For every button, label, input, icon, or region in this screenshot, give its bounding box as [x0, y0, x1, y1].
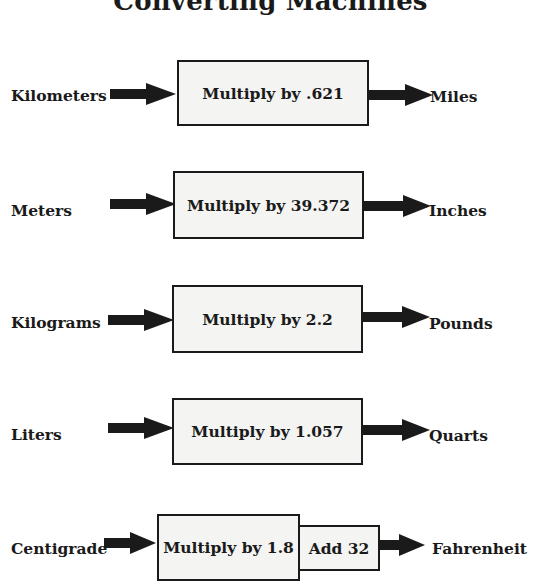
output-arrow-icon [363, 195, 431, 217]
input-label-centigrade: Centigrade [11, 539, 107, 558]
machine-box-kilometers: Multiply by .621 [177, 60, 369, 126]
input-label-liters: Liters [11, 425, 62, 444]
input-label-kilometers: Kilometers [11, 86, 107, 105]
machine-box-multiply: Multiply by 1.8 [157, 514, 300, 581]
output-arrow-icon [362, 419, 430, 441]
machine-box-add: Add 32 [298, 525, 380, 571]
input-arrow-icon [108, 309, 174, 331]
output-label-quarts: Quarts [429, 426, 488, 445]
input-label-meters: Meters [11, 201, 72, 220]
input-arrow-icon [110, 83, 176, 105]
output-label-fahrenheit: Fahrenheit [432, 539, 527, 558]
output-label-miles: Miles [430, 87, 478, 106]
machine-box-liters: Multiply by 1.057 [172, 398, 363, 465]
output-arrow-icon [367, 84, 433, 106]
operation-label: Multiply by .621 [202, 84, 343, 103]
operation-label: Multiply by 2.2 [202, 310, 333, 329]
output-arrow-icon [362, 306, 430, 328]
input-arrow-icon [110, 193, 176, 215]
diagram-title: Converting Machines [0, 0, 541, 16]
output-arrow-icon [379, 534, 425, 556]
operation-label: Multiply by 39.372 [187, 196, 350, 215]
output-label-inches: Inches [429, 201, 487, 220]
input-arrow-icon [108, 417, 174, 439]
output-label-pounds: Pounds [429, 314, 493, 333]
input-label-kilograms: Kilograms [11, 313, 101, 332]
operation-label: Add 32 [309, 539, 370, 558]
machine-box-meters: Multiply by 39.372 [173, 171, 364, 239]
operation-label: Multiply by 1.8 [163, 538, 294, 557]
machine-box-kilograms: Multiply by 2.2 [172, 285, 363, 353]
input-arrow-icon [104, 532, 156, 554]
operation-label: Multiply by 1.057 [191, 422, 343, 441]
